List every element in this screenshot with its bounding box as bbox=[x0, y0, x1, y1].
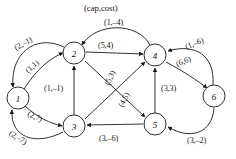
edge-5-3 bbox=[87, 124, 143, 125]
edge-label-5-3: (3,–6) bbox=[99, 135, 118, 143]
edge-3-4 bbox=[85, 62, 145, 119]
node-label-3: 3 bbox=[71, 122, 77, 132]
edge-2-5 bbox=[85, 61, 145, 117]
edge-label-6-5: (3,–2) bbox=[187, 137, 206, 145]
edge-2-4 bbox=[86, 52, 143, 54]
node-label-1: 1 bbox=[16, 94, 21, 104]
node-label-2: 2 bbox=[72, 49, 77, 59]
edge-label-4-2: (1,–4) bbox=[104, 19, 123, 27]
node-label-6: 6 bbox=[212, 92, 217, 102]
edge-6-5 bbox=[168, 108, 214, 134]
edge-label-3-2: (1,–1) bbox=[44, 85, 63, 93]
figure-canvas: (cap,cost) bbox=[0, 0, 236, 159]
node-label-5: 5 bbox=[153, 120, 158, 130]
edge-label-5-4: (3,3) bbox=[161, 85, 176, 93]
edge-label-2-4: (5,4) bbox=[98, 42, 113, 50]
node-label-4: 4 bbox=[153, 51, 158, 61]
edge-4-2 bbox=[82, 28, 150, 45]
